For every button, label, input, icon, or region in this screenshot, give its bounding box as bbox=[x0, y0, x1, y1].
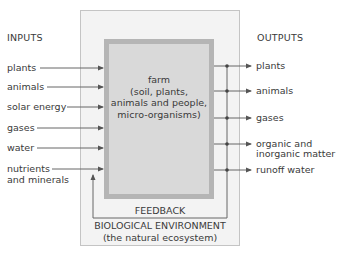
input-nutrients-line2: and minerals bbox=[7, 174, 69, 185]
output-animals: animals bbox=[256, 85, 293, 96]
farm-line1: (soil, plants, bbox=[104, 86, 214, 98]
output-plants: plants bbox=[256, 60, 285, 71]
environment-label: BIOLOGICAL ENVIRONMENT (the natural ecos… bbox=[80, 220, 240, 244]
farm-title: farm bbox=[104, 74, 214, 86]
outputs-header: OUTPUTS bbox=[257, 32, 303, 43]
input-solar-energy: solar energy bbox=[7, 101, 66, 112]
environment-title: BIOLOGICAL ENVIRONMENT bbox=[80, 220, 240, 232]
input-water: water bbox=[7, 142, 34, 153]
farm-line3: micro-organisms) bbox=[104, 109, 214, 121]
farm-description: farm (soil, plants, animals and people, … bbox=[104, 74, 214, 120]
output-gases: gases bbox=[256, 112, 284, 123]
inputs-header: INPUTS bbox=[7, 32, 43, 43]
input-arrows bbox=[37, 68, 103, 169]
output-runoff-water: runoff water bbox=[256, 164, 314, 175]
feedback-label: FEEDBACK bbox=[80, 205, 240, 216]
farm-line2: animals and people, bbox=[104, 97, 214, 109]
input-nutrients: nutrients bbox=[7, 163, 50, 174]
output-organic-line2: inorganic matter bbox=[256, 148, 335, 159]
input-plants: plants bbox=[7, 62, 36, 73]
environment-subtitle: (the natural ecosystem) bbox=[80, 232, 240, 244]
output-arrows bbox=[214, 66, 251, 218]
input-gases: gases bbox=[7, 122, 35, 133]
input-animals: animals bbox=[7, 81, 44, 92]
